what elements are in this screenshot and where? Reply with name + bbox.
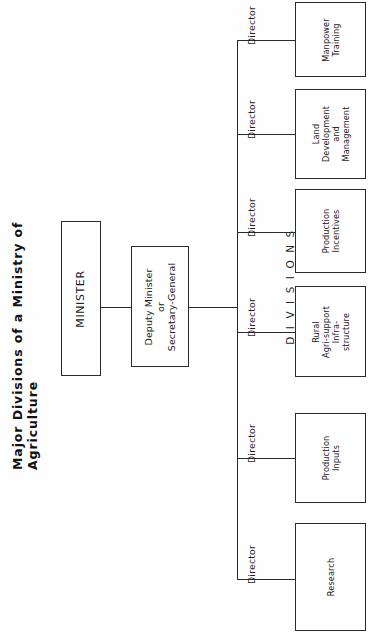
deputy-line-2: or [154,262,166,350]
node-division-research-label: Research [326,558,336,596]
node-division-rural-agri-support-infrastructure-label: Rural Agri-support Infra- structure [311,305,351,357]
division-line: Incentives [331,209,341,254]
division-line: Research [326,558,336,596]
node-division-land-development-and-management-label: Land Development and Management [311,106,351,162]
division-line: Production [321,436,331,481]
node-deputy-minister-label: Deputy Minister or Secretary-General [143,262,178,350]
division-line: Management [341,106,351,162]
director-label-production-inputs: Director [245,412,258,476]
node-division-production-incentives-label: Production Incentives [321,209,341,254]
node-division-rural-agri-support-infrastructure: Rural Agri-support Infra- structure [295,286,366,377]
director-label-manpower-training: Director [245,0,258,58]
division-line: Infra- [331,305,341,357]
node-division-production-inputs: Production Inputs [295,413,366,503]
director-label-land-development-and-management: Director [245,88,258,152]
director-label-rural-agri-support-infrastructure: Director [245,286,258,350]
node-minister-label: MINISTER [74,270,87,327]
division-line: Manpower [321,18,331,61]
node-division-production-incentives: Production Incentives [295,189,366,273]
node-division-manpower-training-label: Manpower Training [321,18,341,61]
division-line: and [331,106,341,162]
director-label-production-incentives: Director [245,186,258,250]
division-line: Inputs [331,436,341,481]
node-deputy-minister: Deputy Minister or Secretary-General [131,246,189,367]
page-title: Major Divisions of a Ministry of Agricul… [14,140,36,470]
connector-minister-deputy [101,307,131,308]
trunk-vertical-line [237,40,238,580]
director-label-research: Director [245,533,258,597]
node-division-land-development-and-management: Land Development and Management [295,89,366,179]
division-line: Development [321,106,331,162]
division-line: Agri-support [321,305,331,357]
node-division-manpower-training: Manpower Training [295,2,366,77]
division-line: Training [331,18,341,61]
connector-deputy-trunk [189,307,238,308]
org-chart-canvas: Major Divisions of a Ministry of Agricul… [0,0,370,635]
division-line: Land [311,106,321,162]
node-division-research: Research [295,523,366,631]
division-line: Production [321,209,331,254]
division-line: Rural [311,305,321,357]
deputy-line-3: Secretary-General [166,262,178,350]
deputy-line-1: Deputy Minister [143,262,155,350]
division-line: structure [341,305,351,357]
node-minister: MINISTER [61,221,101,376]
node-division-production-inputs-label: Production Inputs [321,436,341,481]
